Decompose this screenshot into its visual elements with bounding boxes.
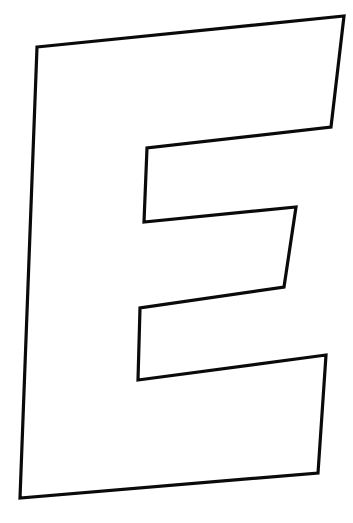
letter-e-canvas <box>0 0 353 523</box>
letter-e-outline <box>20 16 344 498</box>
